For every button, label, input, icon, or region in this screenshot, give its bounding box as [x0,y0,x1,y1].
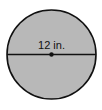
circle-figure: 12 in. [0,0,102,110]
diameter-label: 12 in. [38,39,65,51]
center-point [49,52,53,56]
circle-diagram: 12 in. [0,0,102,110]
